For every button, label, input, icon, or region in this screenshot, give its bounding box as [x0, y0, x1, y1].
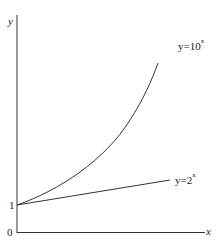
- curve-label-2x: y=2x: [175, 175, 196, 186]
- y-axis-label: y: [8, 16, 13, 27]
- origin-label: 0: [7, 227, 13, 238]
- y-intercept-label: 1: [9, 200, 15, 211]
- curve-2-power-x: [17, 180, 170, 205]
- curve-label-10x-exp: x: [201, 37, 205, 45]
- curve-10-power-x: [17, 63, 158, 205]
- x-axis-label: x: [206, 226, 211, 237]
- graph-canvas: [0, 0, 219, 245]
- curve-label-2x-base: y=2: [175, 174, 192, 186]
- curve-label-10x-base: y=10: [178, 40, 201, 52]
- curve-label-10x: y=10x: [178, 41, 204, 52]
- curve-label-2x-exp: x: [192, 171, 196, 179]
